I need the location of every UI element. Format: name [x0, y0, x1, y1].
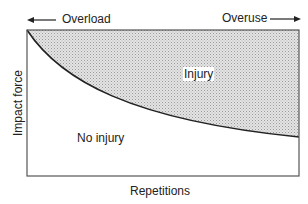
x-axis-label: Repetitions	[130, 184, 190, 198]
injury-label: Injury	[183, 67, 214, 81]
overuse-label: Overuse	[222, 11, 267, 25]
no-injury-label: No injury	[77, 131, 124, 145]
arrow-left-icon	[27, 17, 34, 23]
arrow-right-icon	[294, 16, 301, 22]
injury-region	[27, 30, 299, 137]
overload-label: Overload	[62, 12, 111, 26]
diagram-canvas	[0, 0, 308, 204]
y-axis-label: Impact force	[11, 67, 25, 139]
